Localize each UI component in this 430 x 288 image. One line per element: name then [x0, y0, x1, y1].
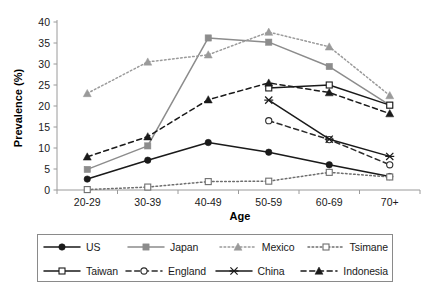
- legend-item-tsimane[interactable]: Tsimane: [306, 235, 388, 259]
- data-point-marker: [266, 118, 272, 124]
- y-tick-label: 40: [38, 16, 50, 28]
- data-point-marker: [84, 166, 90, 172]
- series-england: [266, 118, 393, 168]
- legend-key-indonesia: [299, 264, 339, 278]
- data-point-marker: [266, 149, 272, 155]
- y-tick-label: 30: [38, 58, 50, 70]
- data-point-marker: [205, 139, 211, 145]
- legend-key-tsimane: [306, 240, 346, 254]
- data-point-marker: [266, 178, 272, 184]
- data-point-marker: [145, 184, 151, 190]
- y-tick-label: 5: [44, 163, 50, 175]
- x-tick-label: 70+: [381, 196, 399, 208]
- data-point-marker: [387, 174, 393, 180]
- series-line: [269, 100, 390, 156]
- legend-item-mexico[interactable]: Mexico: [218, 235, 306, 259]
- data-point-marker: [59, 268, 65, 274]
- data-point-marker: [326, 82, 332, 88]
- legend-item-us[interactable]: US: [42, 235, 126, 259]
- data-point-marker: [205, 179, 211, 185]
- series-line: [87, 143, 390, 180]
- legend-label-us: US: [82, 241, 100, 253]
- legend-item-japan[interactable]: Japan: [126, 235, 218, 259]
- x-axis-title-text: Age: [230, 210, 251, 222]
- legend-key-china: [214, 264, 254, 278]
- data-point-marker: [385, 153, 394, 160]
- series-japan: [84, 35, 393, 173]
- legend-item-china[interactable]: China: [214, 259, 300, 283]
- plot-area-container: 0510152025303540 Prevalence (%) 20-2930-…: [0, 0, 430, 232]
- series-line: [87, 172, 390, 189]
- data-point-marker: [387, 102, 393, 108]
- series-lines-layer: [83, 28, 394, 193]
- series-line: [87, 32, 390, 95]
- chart-legend: US Japan Mexico Tsimane Taiwan Engl: [37, 234, 393, 282]
- legend-label-england: England: [164, 265, 206, 277]
- y-axis-title-text: Prevalence (%): [12, 69, 24, 148]
- data-point-marker: [326, 63, 332, 69]
- series-mexico: [83, 28, 394, 99]
- legend-label-japan: Japan: [166, 241, 198, 253]
- data-point-marker: [386, 110, 394, 117]
- data-point-marker: [264, 97, 273, 104]
- legend-item-taiwan[interactable]: Taiwan: [42, 259, 124, 283]
- legend-item-england[interactable]: England: [124, 259, 214, 283]
- x-tick-label: 60-69: [316, 196, 343, 208]
- data-point-marker: [326, 162, 332, 168]
- data-point-marker: [205, 35, 211, 41]
- data-point-marker: [204, 96, 212, 103]
- legend-row: US Japan Mexico Tsimane: [38, 235, 392, 259]
- data-point-marker: [141, 268, 147, 274]
- data-point-marker: [145, 157, 151, 163]
- x-tick-label: 20-29: [74, 196, 101, 208]
- data-point-marker: [143, 244, 149, 250]
- y-tick-label: 20: [38, 100, 50, 112]
- series-tsimane: [84, 169, 393, 192]
- legend-key-us: [42, 240, 82, 254]
- x-tick-label: 40-49: [195, 196, 222, 208]
- data-point-marker: [59, 244, 65, 250]
- y-axis-tick-labels: 0510152025303540: [38, 16, 50, 196]
- data-point-marker: [229, 267, 238, 274]
- legend-label-china: China: [254, 265, 285, 277]
- x-tick-label: 30-39: [134, 196, 161, 208]
- y-tick-label: 15: [38, 121, 50, 133]
- data-point-marker: [266, 39, 272, 45]
- axis-lines: [54, 20, 421, 194]
- series-line: [87, 38, 390, 169]
- prevalence-by-age-line-chart: 0510152025303540 Prevalence (%) 20-2930-…: [0, 0, 430, 232]
- legend-label-indonesia: Indonesia: [339, 265, 388, 277]
- legend-row: Taiwan England China Indonesia: [38, 259, 392, 283]
- series-us: [84, 139, 393, 182]
- chart-figure: 0510152025303540 Prevalence (%) 20-2930-…: [0, 0, 430, 288]
- data-point-marker: [323, 244, 329, 250]
- data-point-marker: [265, 28, 273, 35]
- legend-label-taiwan: Taiwan: [82, 265, 118, 277]
- data-point-marker: [265, 79, 273, 86]
- data-point-marker: [326, 169, 332, 175]
- legend-key-mexico: [218, 240, 258, 254]
- y-axis-title: Prevalence (%): [12, 69, 24, 148]
- data-point-marker: [144, 133, 152, 140]
- data-point-marker: [84, 176, 90, 182]
- x-axis-tick-labels: 20-2930-3940-4950-5960-6970+: [74, 196, 399, 208]
- legend-label-mexico: Mexico: [258, 241, 295, 253]
- y-tick-label: 10: [38, 142, 50, 154]
- legend-label-tsimane: Tsimane: [346, 241, 388, 253]
- y-tick-label: 0: [44, 184, 50, 196]
- legend-key-taiwan: [42, 264, 82, 278]
- data-point-marker: [83, 89, 91, 96]
- y-tick-label: 25: [38, 79, 50, 91]
- data-point-marker: [387, 162, 393, 168]
- x-axis-title: Age: [230, 210, 251, 222]
- data-point-marker: [84, 187, 90, 193]
- x-tick-label: 50-59: [255, 196, 282, 208]
- legend-item-indonesia[interactable]: Indonesia: [299, 259, 388, 283]
- y-tick-label: 35: [38, 37, 50, 49]
- legend-key-england: [124, 264, 164, 278]
- series-china: [264, 97, 394, 160]
- data-point-marker: [145, 143, 151, 149]
- legend-key-japan: [126, 240, 166, 254]
